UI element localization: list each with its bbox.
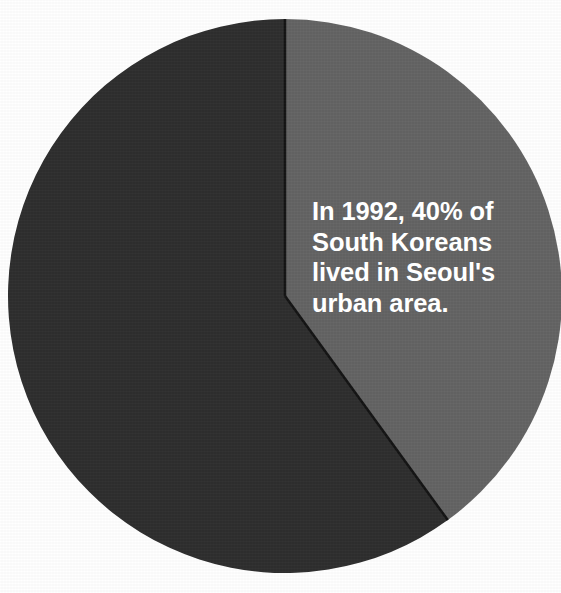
pie-annotation-text: In 1992, 40% of South Koreans lived in S… <box>312 196 522 318</box>
annotation-line-1: In 1992, 40% of <box>312 196 522 227</box>
pie-chart-figure: In 1992, 40% of South Koreans lived in S… <box>0 0 561 593</box>
annotation-line-3: lived in Seoul's <box>312 257 522 288</box>
annotation-line-2: South Koreans <box>312 227 522 258</box>
annotation-line-4: urban area. <box>312 288 522 319</box>
